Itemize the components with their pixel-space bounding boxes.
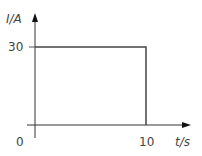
- x-tick-label-10: 10: [139, 135, 154, 149]
- y-axis-label: I/A: [6, 12, 22, 26]
- y-axis-arrow-icon: [32, 13, 38, 22]
- x-axis-arrow-icon: [182, 122, 191, 128]
- x-axis-label: t/s: [175, 135, 190, 149]
- current-time-chart: I/A 30 0 10 t/s: [0, 0, 202, 156]
- current-line: [35, 47, 146, 125]
- origin-label: 0: [16, 135, 24, 149]
- y-tick-label-30: 30: [8, 40, 23, 54]
